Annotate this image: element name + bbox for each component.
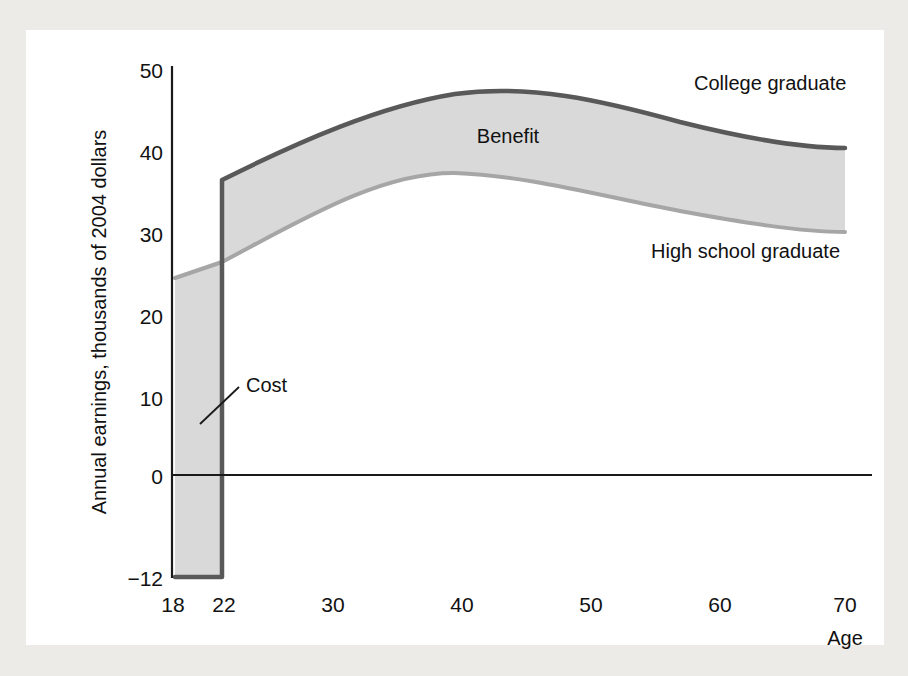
y-tick-label-0: 0 [151, 465, 163, 488]
figure-page: 50 40 30 20 10 0 −12 18 22 30 40 50 60 7… [0, 0, 908, 676]
cost-label: Cost [246, 374, 288, 396]
benefit-region [222, 91, 845, 262]
y-tick-label-10: 10 [140, 387, 163, 410]
y-tick-label-50: 50 [140, 59, 163, 82]
x-tick-label-22: 22 [212, 593, 235, 616]
y-tick-label-30: 30 [140, 223, 163, 246]
x-axis-title: Age [827, 627, 863, 649]
x-tick-label-18: 18 [161, 593, 184, 616]
x-tick-labels: 18 22 30 40 50 60 70 [161, 593, 856, 616]
cost-region [175, 262, 222, 577]
earnings-chart: 50 40 30 20 10 0 −12 18 22 30 40 50 60 7… [0, 0, 908, 676]
x-tick-label-50: 50 [579, 593, 602, 616]
benefit-region-label: Benefit [477, 125, 540, 147]
x-tick-label-30: 30 [321, 593, 344, 616]
x-tick-label-70: 70 [833, 593, 856, 616]
y-tick-labels: 50 40 30 20 10 0 −12 [127, 59, 163, 590]
y-tick-label-minus12: −12 [127, 567, 163, 590]
college-graduate-label: College graduate [694, 72, 846, 94]
y-axis-title: Annual earnings, thousands of 2004 dolla… [88, 130, 110, 515]
shaded-regions [175, 91, 845, 577]
x-tick-label-40: 40 [450, 593, 473, 616]
y-tick-label-40: 40 [140, 141, 163, 164]
y-tick-label-20: 20 [140, 305, 163, 328]
x-tick-label-60: 60 [708, 593, 731, 616]
highschool-graduate-label: High school graduate [651, 240, 840, 262]
